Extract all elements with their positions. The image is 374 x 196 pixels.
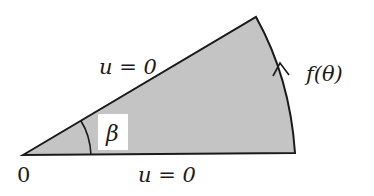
origin-label: 0 (17, 163, 30, 187)
upper-edge-label: u = 0 (99, 55, 157, 79)
lower-edge-label: u = 0 (138, 163, 196, 187)
wedge-region (23, 17, 295, 155)
angle-label: β (105, 121, 119, 146)
arc-boundary-label: f(θ) (304, 62, 343, 86)
wedge-diagram: β u = 0 u = 0 0 f(θ) (0, 0, 374, 196)
